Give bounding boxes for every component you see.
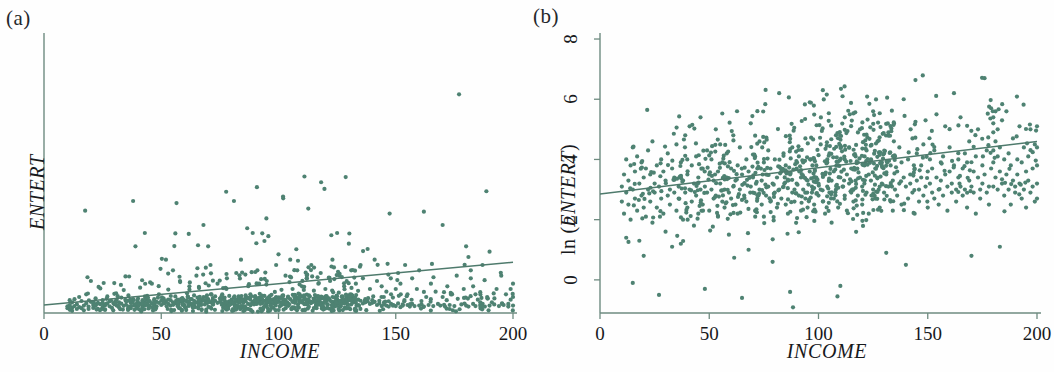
figure-root: (a) ENTERT INCOME 050100150200 (b) ln (E… [0,0,1054,372]
y-title-ln-prefix: ln [557,238,579,255]
panel-b-y-tick-8: 8 [560,26,582,52]
panel-b-points [620,73,1039,309]
panel-b-x-tick-0: 0 [570,323,630,345]
panel-a-x-tick-150: 150 [366,323,426,345]
panel-b-y-tick-0: 0 [560,267,582,293]
panel-b-x-tick-100: 100 [789,323,849,345]
panel-b-y-tick-6: 6 [560,86,582,112]
panel-b-x-tick-50: 50 [679,323,739,345]
panel-a-points [65,92,515,314]
panel-b-y-tick-4: 4 [560,146,582,172]
panel-a: (a) ENTERT INCOME 050100150200 [0,0,527,372]
panel-b-x-tick-200: 200 [1007,323,1054,345]
panel-a-x-tick-50: 50 [131,323,191,345]
panel-b-plot-area [527,0,1054,372]
panel-a-x-tick-0: 0 [14,323,74,345]
panel-b: (b) ln (ENTERT) INCOME 05010015020002468 [527,0,1054,372]
panel-b-y-tick-2: 2 [560,207,582,233]
panel-a-x-tick-100: 100 [249,323,309,345]
panel-b-x-tick-150: 150 [898,323,958,345]
panel-a-plot-area [0,0,527,372]
panel-a-y-axis-title: ENTERT [26,154,49,230]
